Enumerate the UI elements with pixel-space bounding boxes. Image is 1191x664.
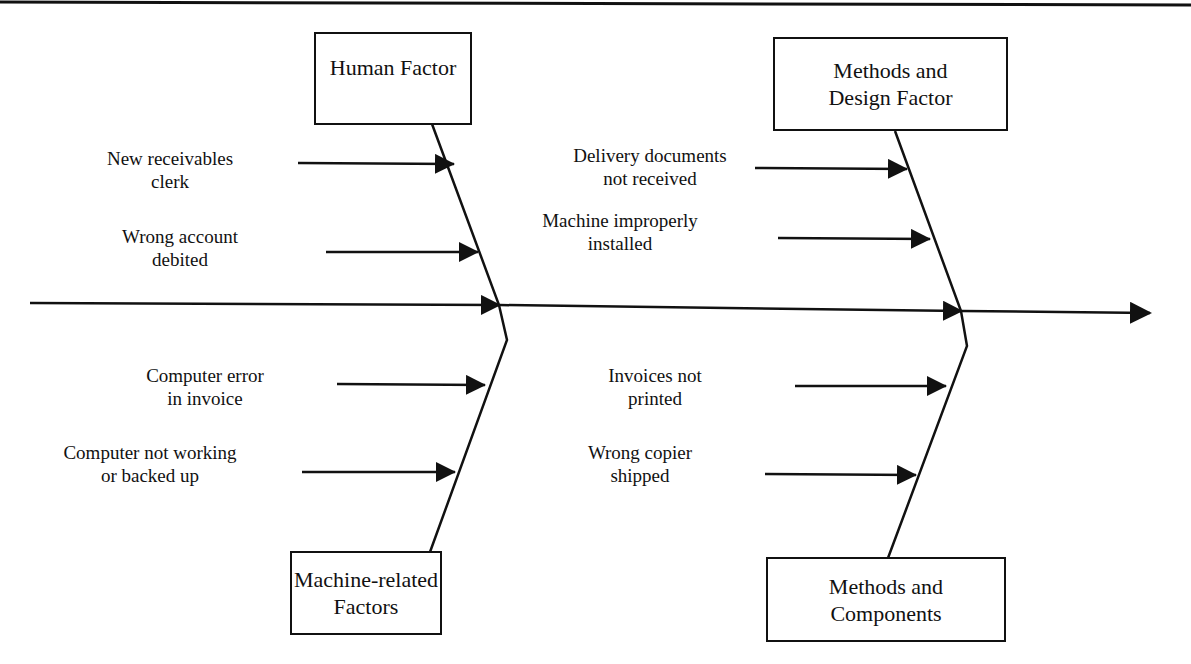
category-box-machine: Machine-related Factors (290, 551, 442, 635)
arrow-machine-installed (778, 238, 930, 239)
cause-line1: Invoices not (575, 364, 735, 387)
cause-line2: installed (530, 232, 710, 255)
category-label-line1: Machine-related (294, 566, 438, 593)
category-label-line2: Factors (294, 593, 438, 620)
cause-wrong-copier: Wrong copier shipped (560, 441, 720, 487)
arrow-delivery-docs (755, 168, 907, 169)
category-box-methods-components: Methods and Components (766, 557, 1006, 642)
top-border-line (0, 2, 1191, 5)
cause-line1: Delivery documents (560, 144, 740, 167)
main-spine-left (30, 303, 500, 305)
main-spine-mid (500, 305, 962, 311)
category-label-line2: Components (829, 600, 943, 627)
category-label-line1: Methods and (828, 57, 952, 84)
cause-line1: Computer error (115, 364, 295, 387)
cause-line1: Computer not working (30, 441, 270, 464)
cause-line1: New receivables (90, 147, 250, 170)
category-box-human: Human Factor (314, 32, 472, 125)
cause-line1: Wrong copier (560, 441, 720, 464)
cause-line2: debited (100, 248, 260, 271)
cause-line2: not received (560, 167, 740, 190)
cause-line1: Machine improperly (530, 209, 710, 232)
cause-line1: Wrong account (100, 225, 260, 248)
arrow-computer-error (337, 384, 485, 385)
cause-computer-error: Computer error in invoice (115, 364, 295, 410)
cause-line2: in invoice (115, 387, 295, 410)
category-label: Human Factor (330, 54, 456, 81)
cause-line2: or backed up (30, 464, 270, 487)
cause-line2: shipped (560, 464, 720, 487)
cause-machine-installed: Machine improperly installed (530, 209, 710, 255)
category-label-line2: Design Factor (828, 84, 952, 111)
cause-new-receivables: New receivables clerk (90, 147, 250, 193)
cause-line2: clerk (90, 170, 250, 193)
cause-invoices-not-printed: Invoices not printed (575, 364, 735, 410)
category-label-line1: Methods and (829, 573, 943, 600)
fishbone-lines (0, 0, 1191, 664)
arrow-new-receivables (298, 163, 454, 164)
category-box-methods-design: Methods and Design Factor (773, 37, 1008, 131)
bone-methods (888, 131, 967, 558)
cause-line2: printed (575, 387, 735, 410)
bone-human-machine (430, 124, 507, 552)
cause-wrong-account: Wrong account debited (100, 225, 260, 271)
cause-delivery-docs: Delivery documents not received (560, 144, 740, 190)
cause-computer-not-working: Computer not working or backed up (30, 441, 270, 487)
arrow-wrong-copier (765, 474, 916, 475)
main-spine-right (962, 311, 1150, 313)
